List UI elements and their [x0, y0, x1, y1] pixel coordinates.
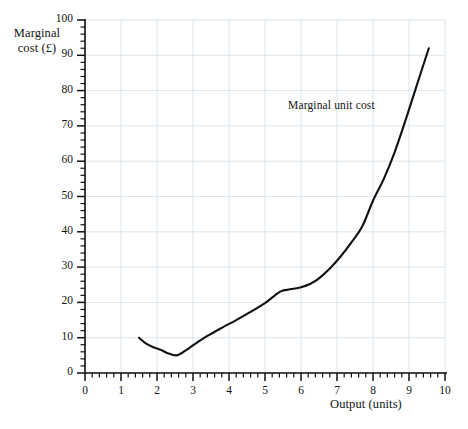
- y-tick-label: 20: [47, 294, 73, 306]
- x-tick-label: 9: [396, 384, 422, 396]
- y-tick-label: 80: [47, 83, 73, 95]
- x-tick-label: 10: [432, 384, 458, 396]
- y-tick-label: 30: [47, 259, 73, 271]
- x-tick-label: 5: [252, 384, 278, 396]
- axis-lines-group: [85, 19, 447, 373]
- x-tick-label: 7: [324, 384, 350, 396]
- series-annotation-label: Marginal unit cost: [288, 99, 375, 111]
- chart-figure: Marginal cost (£) Output (units) Margina…: [0, 0, 468, 429]
- x-tick-label: 6: [288, 384, 314, 396]
- y-tick-marks-group: [77, 20, 85, 373]
- y-tick-label: 10: [47, 330, 73, 342]
- data-series-group: [139, 48, 429, 355]
- gridlines-group: [85, 20, 445, 373]
- x-tick-label: 1: [108, 384, 134, 396]
- y-tick-label: 40: [47, 224, 73, 236]
- y-tick-label: 60: [47, 153, 73, 165]
- y-tick-label: 0: [47, 365, 73, 377]
- x-tick-label: 8: [360, 384, 386, 396]
- x-axis-title: Output (units): [330, 397, 460, 412]
- series-line-0: [139, 48, 429, 355]
- y-tick-label: 100: [47, 12, 73, 24]
- x-tick-label: 3: [180, 384, 206, 396]
- y-tick-label: 70: [47, 118, 73, 130]
- x-tick-label: 4: [216, 384, 242, 396]
- x-tick-label: 2: [144, 384, 170, 396]
- x-tick-marks-group: [85, 373, 445, 381]
- x-tick-label: 0: [72, 384, 98, 396]
- y-tick-label: 50: [47, 189, 73, 201]
- y-tick-label: 90: [47, 47, 73, 59]
